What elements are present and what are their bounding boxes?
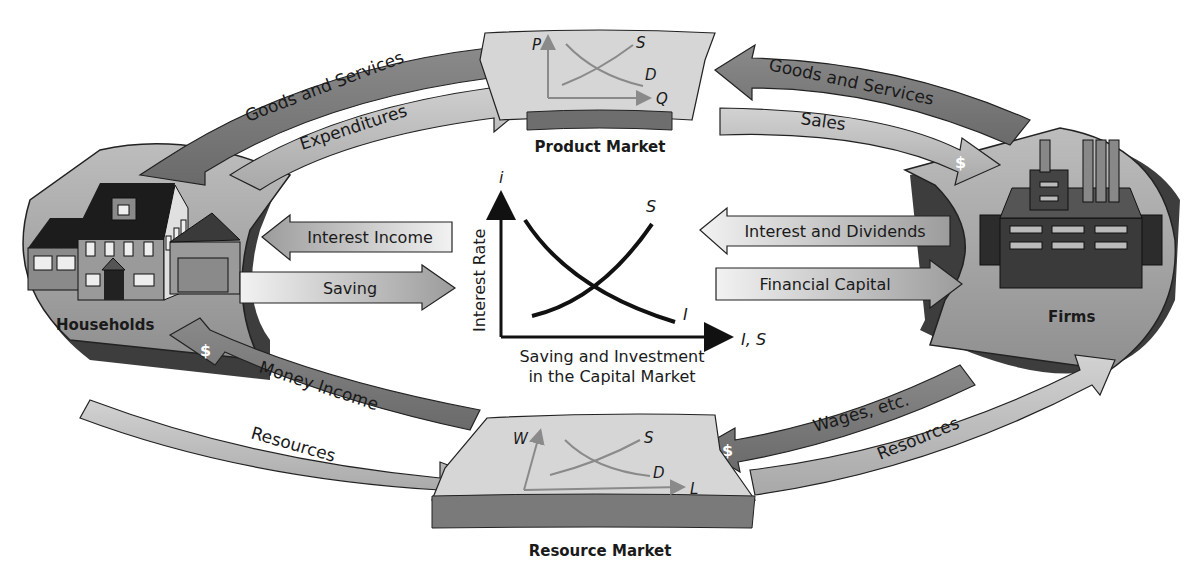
dollar-icon: $ <box>955 153 966 172</box>
svg-text:Q: Q <box>656 90 668 108</box>
label-interest-income: Interest Income <box>307 228 433 247</box>
svg-text:S: S <box>644 429 654 447</box>
dollar-icon: $ <box>200 341 211 360</box>
product-market-label: Product Market <box>535 138 666 156</box>
product-market: P S D Q Product Market <box>480 30 715 156</box>
saving-curve <box>532 224 652 316</box>
svg-text:L: L <box>690 480 698 498</box>
flow-saving: Saving <box>240 265 455 310</box>
investment-curve <box>525 220 675 322</box>
svg-text:in the Capital Market: in the Capital Market <box>528 367 695 386</box>
svg-text:D: D <box>653 464 665 482</box>
label-financial-capital: Financial Capital <box>759 275 890 294</box>
firms-label: Firms <box>1048 308 1095 326</box>
resource-market: W S D L Resource Market <box>432 414 755 560</box>
svg-text:W: W <box>513 430 529 448</box>
y-axis-label: Interest Rate <box>470 229 489 332</box>
svg-text:I: I <box>683 305 688 324</box>
label-interest-dividends: Interest and Dividends <box>744 222 925 241</box>
svg-text:S: S <box>646 197 656 216</box>
flow-interest-dividends: Interest and Dividends <box>700 208 950 254</box>
flow-interest-income: Interest Income <box>262 215 452 260</box>
resource-market-label: Resource Market <box>529 542 672 560</box>
svg-text:i: i <box>499 168 504 187</box>
svg-text:P: P <box>532 36 542 54</box>
label-saving: Saving <box>323 279 377 298</box>
svg-text:Saving and Investment: Saving and Investment <box>519 347 704 366</box>
svg-text:S: S <box>636 34 646 52</box>
svg-text:D: D <box>645 66 657 84</box>
svg-text:I, S: I, S <box>741 330 766 349</box>
circular-flow-diagram: Goods and Services Expenditures $ Goods … <box>0 0 1200 568</box>
households-label: Households <box>56 316 155 334</box>
